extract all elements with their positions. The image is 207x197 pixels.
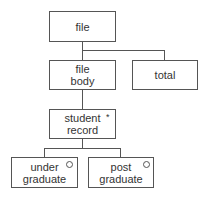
node-label-line2: graduate bbox=[23, 173, 66, 185]
node-label-line1: under bbox=[30, 161, 58, 173]
edge-studentrecord-down bbox=[82, 138, 83, 148]
selection-marker bbox=[143, 161, 150, 168]
node-label-line2: body bbox=[71, 75, 95, 87]
node-label-line1: post bbox=[111, 161, 132, 173]
node-file: file bbox=[49, 11, 116, 42]
node-label-line2: graduate bbox=[99, 173, 142, 185]
edge-studentrecord-horizontal bbox=[44, 148, 121, 149]
node-label: total bbox=[155, 69, 176, 81]
edge-to-post bbox=[120, 148, 121, 157]
node-label: file bbox=[75, 21, 89, 33]
edge-to-under bbox=[44, 148, 45, 157]
selection-marker bbox=[66, 161, 73, 168]
node-label-line2: record bbox=[67, 124, 98, 136]
edge-filebody-studentrecord bbox=[82, 89, 83, 109]
iteration-marker: * bbox=[106, 113, 110, 122]
edge-to-total bbox=[164, 50, 165, 60]
node-file-body: file body bbox=[49, 60, 116, 90]
node-total: total bbox=[132, 60, 198, 90]
node-label-line1: file bbox=[75, 63, 89, 75]
node-label-line1: student bbox=[64, 112, 100, 124]
edge-file-horizontal bbox=[82, 50, 165, 51]
